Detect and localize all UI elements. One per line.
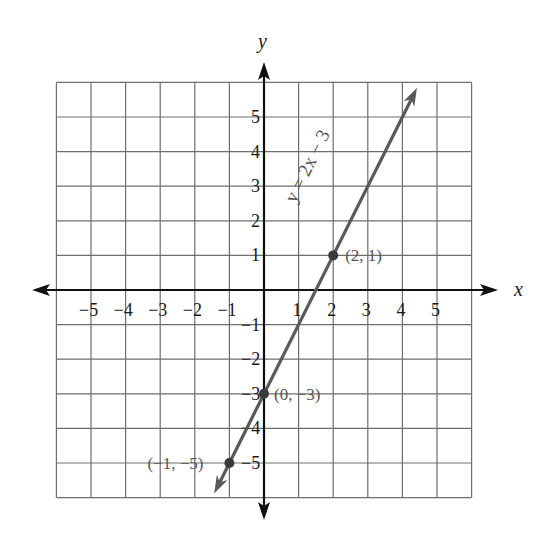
marked-point: [224, 458, 234, 468]
x-tick-label: 3: [362, 300, 371, 320]
point-label: (0, −3): [274, 385, 320, 404]
y-tick-label: 2: [251, 211, 260, 231]
coordinate-plane: −5−4−3−2−11234554321−1−2−3−4−5 (−1, −5)(…: [0, 0, 550, 536]
x-axis-label: x: [513, 278, 523, 300]
y-axis-label: y: [256, 30, 267, 53]
y-tick-label: 4: [251, 142, 260, 162]
marked-point: [259, 389, 269, 399]
x-tick-label: −5: [79, 300, 98, 320]
y-tick-label: −5: [241, 453, 260, 473]
point-label: (−1, −5): [147, 454, 203, 473]
x-tick-label: −4: [114, 300, 133, 320]
x-tick-label: 5: [431, 300, 440, 320]
x-tick-label: 1: [293, 300, 302, 320]
axes: [32, 62, 498, 520]
x-tick-label: 2: [327, 300, 336, 320]
x-tick-label: −3: [148, 300, 167, 320]
x-tick-label: 4: [396, 300, 405, 320]
x-tick-label: −1: [217, 300, 236, 320]
x-tick-label: −2: [183, 300, 202, 320]
y-tick-label: −1: [241, 315, 260, 335]
point-label: (2, 1): [345, 246, 382, 265]
equation-label: y = 2x − 3: [280, 126, 334, 206]
y-tick-label: 3: [251, 176, 260, 196]
y-tick-label: 5: [251, 107, 260, 127]
y-tick-label: 1: [251, 245, 260, 265]
y-tick-label: −2: [241, 349, 260, 369]
y-tick-label: −3: [241, 384, 260, 404]
marked-point: [328, 250, 338, 260]
